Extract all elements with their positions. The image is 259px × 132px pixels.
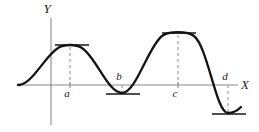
point-label-b: b [116,70,122,82]
point-label-c: c [173,87,178,99]
x-axis-label: X [240,77,250,92]
point-label-d: d [222,70,228,82]
wave-graph-svg: Y X a b c d [0,0,259,132]
point-label-a: a [64,87,70,99]
y-axis-label: Y [43,1,52,16]
figure-container: Y X a b c d [0,0,259,132]
